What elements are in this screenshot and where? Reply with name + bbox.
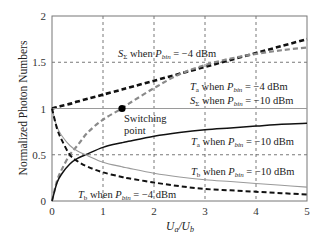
y-tick-label: 0	[41, 195, 47, 207]
label-s-sigma-m4: SΣ when Pbin = −4 dBm	[118, 48, 216, 61]
x-tick-label: 4	[253, 205, 259, 217]
x-tick-label: 3	[202, 205, 208, 217]
x-axis-title: Ua/Ub	[166, 220, 194, 234]
x-tick-label: 1	[100, 205, 106, 217]
y-tick-label: 0.5	[32, 149, 46, 161]
y-axis-title: Normalized Photon Numbers	[17, 40, 29, 175]
curve-gray-dashed	[52, 47, 307, 201]
y-axis-ticks: 00.511.52	[32, 10, 46, 207]
x-tick-label: 0	[49, 205, 55, 217]
x-axis-ticks: 012345	[49, 205, 310, 217]
y-tick-label: 2	[41, 10, 47, 22]
switching-point-marker	[118, 105, 125, 112]
label-tb-m10: Tb when Pbin = −10 dBm	[191, 166, 294, 179]
label-tb-m4: Tb when Pbin = −4 dBm	[78, 189, 176, 202]
label-ta-m10: Ta when Pbin = −10 dBm	[191, 136, 294, 149]
x-tick-label: 5	[304, 205, 310, 217]
label-s-sigma-m10: SΣ when Pbin = −10 dBm	[190, 95, 293, 108]
curve-black-dashed	[52, 109, 307, 195]
label-switching-point: Switching point	[124, 113, 169, 136]
label-ta-m4: Ta when Pbin = −4 dBm	[190, 81, 288, 94]
y-tick-label: 1	[41, 103, 47, 115]
y-tick-label: 1.5	[32, 56, 46, 68]
photon-number-chart: 012345 00.511.52 SΣ when Pbin = −4 dBm T…	[0, 0, 325, 246]
x-tick-label: 2	[151, 205, 157, 217]
